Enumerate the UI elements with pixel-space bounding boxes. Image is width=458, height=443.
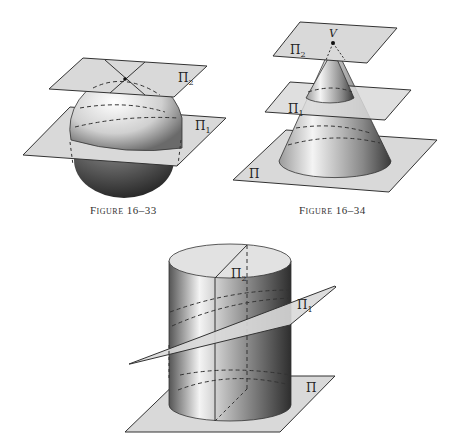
vertex-point (331, 41, 335, 45)
caption-figure-16-33: Figure 16–33 (90, 204, 157, 216)
svg-text:Π: Π (249, 167, 259, 181)
cylinder (169, 261, 291, 421)
svg-text:Π: Π (306, 381, 316, 395)
caption-figure-16-34: Figure 16–34 (299, 204, 366, 216)
cylinder-top (169, 244, 291, 278)
figure-16-34 (233, 22, 437, 192)
figures-canvas: Π2 Π1 Π2 Π1 Π Π2 Π1 Π V (0, 0, 458, 443)
svg-text:V: V (329, 27, 338, 40)
